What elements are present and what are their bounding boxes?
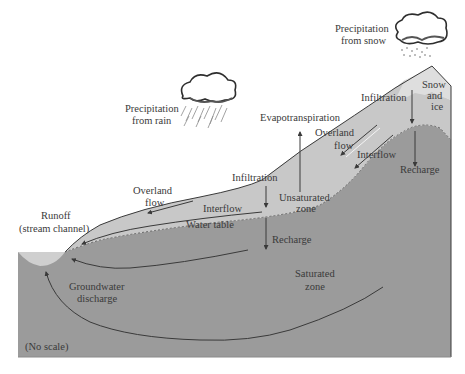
label-snow-1: Snow bbox=[422, 79, 446, 90]
label-snow-3: ice bbox=[431, 101, 444, 112]
label-overland-flow-lower-2: flow bbox=[145, 197, 165, 208]
label-overland-flow-lower-1: Overland bbox=[133, 185, 173, 196]
label-groundwater-1: Groundwater bbox=[69, 281, 125, 292]
snow-cloud-icon bbox=[396, 12, 447, 58]
label-runoff-2: (stream channel) bbox=[19, 223, 90, 235]
label-overland-flow-upper-2: flow bbox=[334, 140, 354, 151]
label-groundwater-2: discharge bbox=[77, 293, 117, 304]
label-no-scale: (No scale) bbox=[25, 341, 69, 353]
label-precip-rain-1: Precipitation bbox=[125, 103, 179, 114]
label-recharge-upper: Recharge bbox=[400, 164, 440, 175]
label-infiltration-mid: Infiltration bbox=[232, 172, 278, 183]
label-recharge-lower: Recharge bbox=[272, 234, 312, 245]
label-interflow-lower: Interflow bbox=[203, 203, 242, 214]
label-unsaturated-1: Unsaturated bbox=[279, 192, 330, 203]
hydrologic-cycle-diagram: Precipitation from rain Precipitation fr… bbox=[0, 0, 465, 374]
label-precip-rain-2: from rain bbox=[132, 115, 172, 126]
label-saturated-2: zone bbox=[305, 281, 325, 292]
label-precip-snow-1: Precipitation bbox=[335, 23, 389, 34]
label-interflow-upper: Interflow bbox=[357, 149, 396, 160]
label-unsaturated-2: zone bbox=[296, 203, 316, 214]
label-evapotranspiration: Evapotranspiration bbox=[260, 112, 341, 123]
label-precip-snow-2: from snow bbox=[341, 35, 387, 46]
label-runoff-1: Runoff bbox=[41, 210, 71, 221]
label-infiltration-mountain: Infiltration bbox=[361, 92, 407, 103]
label-saturated-1: Saturated bbox=[295, 268, 335, 279]
rain-cloud-icon bbox=[181, 73, 236, 128]
label-overland-flow-upper-1: Overland bbox=[315, 127, 355, 138]
label-water-table: Water table bbox=[186, 219, 234, 230]
label-snow-2: and bbox=[427, 90, 443, 101]
